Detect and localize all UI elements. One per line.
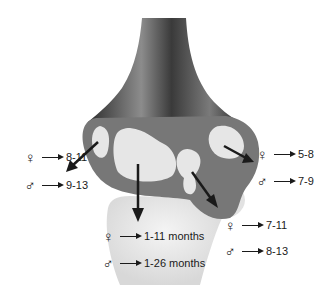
male-age-value: 8-13 <box>266 246 288 257</box>
male-age-value: 7-9 <box>298 176 314 187</box>
female-age-value: 7-11 <box>266 220 287 231</box>
female-age-value: 5-8 <box>298 149 314 160</box>
right-arrow-icon <box>120 263 140 264</box>
male-symbol-icon: ♂ <box>24 178 36 193</box>
female-symbol-icon: ♀ <box>256 147 268 162</box>
female-symbol-icon: ♀ <box>24 150 36 165</box>
right-arrow-icon <box>242 251 262 252</box>
male-row: ♂ 1-26 months <box>102 256 205 271</box>
male-row: ♂ 7-9 <box>256 174 314 189</box>
female-symbol-icon: ♀ <box>102 229 114 244</box>
female-symbol-icon: ♀ <box>224 218 236 233</box>
male-symbol-icon: ♂ <box>102 256 114 271</box>
right-arrow-icon <box>274 154 294 155</box>
right-arrow-icon <box>42 157 62 158</box>
male-symbol-icon: ♂ <box>224 244 236 259</box>
female-age-value: 1-11 months <box>144 231 204 242</box>
male-age-value: 1-26 months <box>144 258 205 269</box>
male-row: ♂ 9-13 <box>24 178 88 193</box>
female-row: ♀ 7-11 <box>224 218 287 233</box>
female-age-value: 8-11 <box>66 152 87 163</box>
male-age-value: 9-13 <box>66 180 88 191</box>
right-arrow-icon <box>274 181 294 182</box>
ossification-center-left <box>92 126 109 158</box>
male-row: ♂ 8-13 <box>224 244 288 259</box>
male-symbol-icon: ♂ <box>256 174 268 189</box>
right-arrow-icon <box>120 236 140 237</box>
female-row: ♀ 1-11 months <box>102 229 204 244</box>
right-arrow-icon <box>42 185 62 186</box>
female-row: ♀ 5-8 <box>256 147 314 162</box>
right-arrow-icon <box>242 225 262 226</box>
female-row: ♀ 8-11 <box>24 150 87 165</box>
